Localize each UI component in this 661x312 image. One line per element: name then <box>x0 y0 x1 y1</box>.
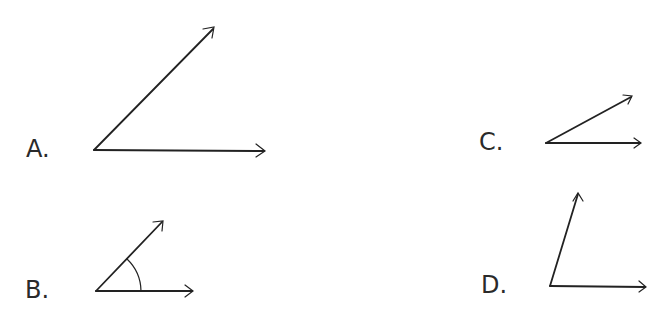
angle-a <box>94 27 265 157</box>
ray-b-diagonal <box>96 222 162 291</box>
ray-c-diagonal <box>546 97 631 143</box>
ray-a-horizontal <box>94 150 264 151</box>
angle-d <box>550 193 646 292</box>
angle-b <box>96 221 193 297</box>
angles-diagram <box>0 0 661 312</box>
ray-d-horizontal <box>550 286 645 287</box>
angle-arc-b <box>127 259 141 291</box>
ray-a-diagonal <box>94 29 213 150</box>
angle-c <box>546 95 641 148</box>
ray-d-diagonal <box>550 194 578 286</box>
